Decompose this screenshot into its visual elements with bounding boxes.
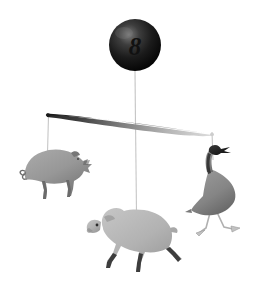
mobile-artwork: 8	[0, 0, 263, 292]
numbered-ball[interactable]: 8	[109, 19, 161, 71]
lamb-eye	[96, 224, 99, 227]
mobile-illustration-canvas: 8	[0, 0, 263, 292]
balance-bar-right-cap	[210, 133, 214, 136]
pig-eye	[77, 158, 79, 160]
ball-number-label: 8	[129, 33, 142, 60]
balance-bar-left-cap	[46, 113, 50, 117]
string-ball-to-bar	[135, 70, 136, 126]
